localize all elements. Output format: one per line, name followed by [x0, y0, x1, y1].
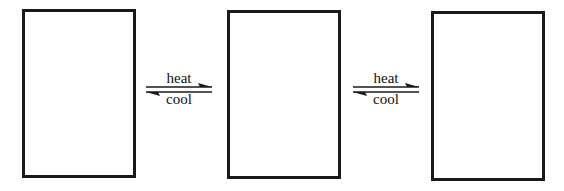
cool-label: cool — [142, 92, 216, 107]
cool-label: cool — [349, 92, 423, 107]
state-box-2 — [227, 10, 341, 179]
state-box-3 — [431, 11, 545, 181]
equilibrium-arrows-1: heat cool — [142, 71, 216, 111]
equilibrium-arrows-2: heat cool — [349, 71, 423, 111]
state-box-1 — [22, 9, 136, 178]
